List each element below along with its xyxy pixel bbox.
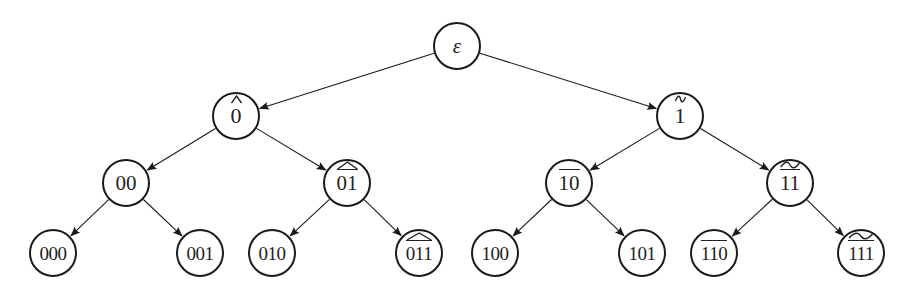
node-label: 00 [116,173,137,194]
node-label: 101 [629,244,656,263]
tilde-accent-icon [848,231,874,241]
node-label-text: ε [453,34,461,58]
edge-n10-to-n101 [586,200,624,236]
tree-node-n111: 111 [837,229,885,277]
node-label: 11 [780,173,800,194]
edge-n00-to-n001 [143,199,181,235]
tree-node-n11: 11 [766,159,814,207]
tree-node-n01: 01 [323,159,371,207]
node-label-text: 11 [780,171,800,195]
node-label-text: 1 [675,103,686,128]
node-label-text: 01 [337,171,358,195]
edge-n1-to-n10 [590,128,659,170]
node-label: 000 [40,244,67,263]
node-label: 01 [337,173,358,194]
node-label-text: 111 [848,243,874,264]
node-label: 010 [259,244,286,263]
overline-mark [559,169,580,170]
tree-node-root: ε [433,22,481,70]
overline-mark [701,240,727,241]
tree-node-n0: 0 [212,92,260,140]
node-label-text: 000 [40,243,67,264]
tree-node-n00: 00 [102,159,150,207]
node-label-text: 101 [629,243,656,264]
tree-node-n101: 101 [618,229,666,277]
edge-root-to-n0 [260,53,434,108]
edge-n11-to-n111 [807,200,843,236]
node-label-text: 100 [482,243,509,264]
tree-node-n100: 100 [471,229,519,277]
tree-node-n1: 1 [656,92,704,140]
tree-node-n110: 110 [690,229,738,277]
tilde-accent-icon [780,160,800,170]
node-label: 110 [701,244,727,263]
node-label-text: 110 [701,243,727,264]
tree-node-n000: 000 [29,229,77,277]
tree-node-n010: 010 [248,229,296,277]
hat-accent-icon [337,160,358,170]
node-label-text: 011 [406,243,432,264]
edge-n01-to-n010 [290,199,329,236]
node-label: 011 [406,244,432,263]
node-label-text: 10 [559,171,580,195]
edge-n01-to-n011 [364,200,401,236]
node-label: 0 [231,105,242,127]
node-label-text: 010 [259,243,286,264]
edge-root-to-n1 [480,53,656,108]
node-label: 111 [848,244,874,263]
node-label: ε [453,36,461,57]
edge-n00-to-n000 [71,200,109,236]
tree-node-n001: 001 [176,229,224,277]
edge-n1-to-n11 [700,128,768,170]
node-label: 1 [675,105,686,127]
node-label: 10 [559,173,580,194]
edge-n0-to-n00 [147,128,215,170]
tree-node-n011: 011 [395,229,443,277]
node-label-text: 0 [231,103,242,128]
node-label-text: 00 [116,171,137,195]
tree-node-n10: 10 [545,159,593,207]
hat-accent-icon [231,94,242,104]
edge-n0-to-n01 [257,128,326,170]
hat-accent-icon [406,231,432,241]
edge-n11-to-n110 [732,199,772,236]
node-label: 001 [187,244,214,263]
binary-tree-diagram: ε0100011011000001010011100101110111 [0,0,914,304]
node-label-text: 001 [187,243,214,264]
node-label: 100 [482,244,509,263]
edge-n10-to-n100 [513,199,551,235]
tilde-accent-icon [675,94,686,104]
